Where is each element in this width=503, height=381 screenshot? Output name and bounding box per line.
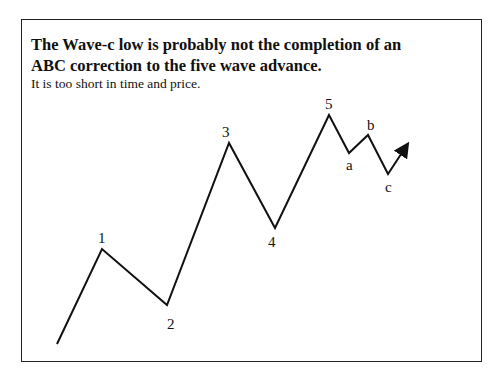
wave-line (57, 115, 407, 344)
elliott-wave-chart: 1 2 3 4 5 a b c (0, 0, 503, 381)
wave-label-3: 3 (222, 124, 230, 140)
wave-label-4: 4 (268, 234, 276, 250)
wave-label-b: b (367, 117, 375, 133)
wave-label-c: c (385, 179, 392, 195)
wave-label-5: 5 (325, 96, 333, 112)
wave-label-a: a (346, 157, 353, 173)
wave-label-2: 2 (167, 316, 175, 332)
wave-label-1: 1 (98, 230, 106, 246)
